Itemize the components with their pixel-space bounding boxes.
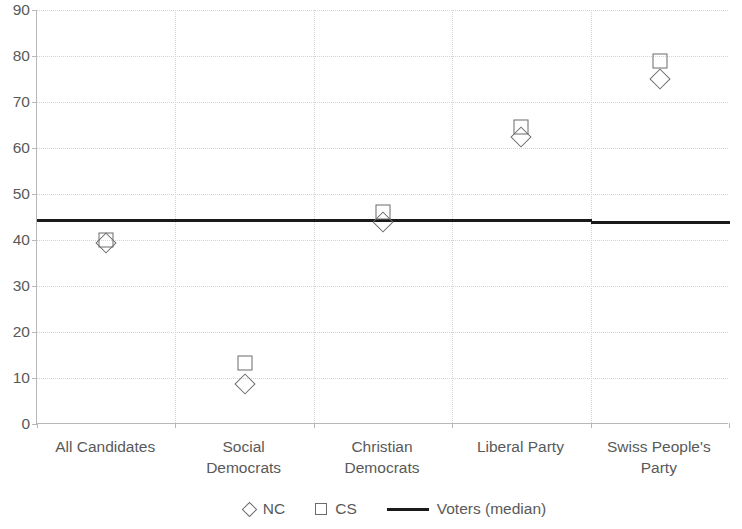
- legend-item-cs[interactable]: CS: [315, 500, 357, 518]
- gridline-y-60: [37, 148, 728, 149]
- gridline-y-20: [37, 332, 728, 333]
- y-axis-label-20: 20: [13, 324, 30, 340]
- legend-item-nc[interactable]: NC: [244, 500, 285, 518]
- y-axis-label-80: 80: [13, 48, 30, 64]
- median-line-segment-4: [591, 221, 730, 224]
- x-axis-category-4: Swiss People's Party: [590, 428, 728, 484]
- gridline-x-1: [175, 10, 176, 423]
- y-tick-50: [32, 194, 37, 195]
- legend-label-2: Voters (median): [437, 500, 546, 518]
- chart-legend: NCCSVoters (median): [193, 494, 597, 524]
- gridline-y-80: [37, 56, 728, 57]
- legend-label-1: CS: [335, 500, 357, 518]
- y-axis-label-50: 50: [13, 186, 30, 202]
- gridline-y-50: [37, 194, 728, 195]
- gridline-y-70: [37, 102, 728, 103]
- square-marker-icon: [315, 503, 327, 515]
- y-tick-90: [32, 10, 37, 11]
- legend-item-voters-median[interactable]: Voters (median): [387, 500, 546, 518]
- y-axis-labels: 0102030405060708090: [0, 0, 30, 529]
- marker-nc-1: [234, 373, 255, 394]
- y-axis-label-60: 60: [13, 140, 30, 156]
- y-tick-80: [32, 56, 37, 57]
- x-tick-5: [729, 423, 730, 428]
- gridline-y-90: [37, 10, 728, 11]
- gridline-x-3: [452, 10, 453, 423]
- x-axis-category-labels: All CandidatesSocial DemocratsChristian …: [36, 428, 728, 484]
- marker-cs-0: [99, 233, 114, 248]
- x-axis-category-0: All Candidates: [36, 428, 174, 484]
- y-tick-60: [32, 148, 37, 149]
- legend-label-0: NC: [263, 500, 285, 518]
- y-axis-label-40: 40: [13, 232, 30, 248]
- y-axis-label-30: 30: [13, 278, 30, 294]
- marker-cs-4: [652, 53, 667, 68]
- median-line-segment-1: [175, 219, 314, 222]
- y-tick-20: [32, 332, 37, 333]
- plot-area: [36, 10, 728, 424]
- x-axis-category-2: Christian Democrats: [313, 428, 451, 484]
- x-axis-category-3: Liberal Party: [451, 428, 589, 484]
- y-axis-label-0: 0: [21, 416, 30, 432]
- median-line-segment-3: [452, 219, 591, 222]
- y-tick-10: [32, 378, 37, 379]
- gridline-y-40: [37, 240, 728, 241]
- gridline-y-30: [37, 286, 728, 287]
- marker-cs-3: [514, 120, 529, 135]
- y-tick-40: [32, 240, 37, 241]
- marker-cs-2: [376, 205, 391, 220]
- y-axis-label-90: 90: [13, 2, 30, 18]
- gridline-x-2: [314, 10, 315, 423]
- line-marker-icon: [387, 508, 429, 511]
- median-line-segment-0: [37, 219, 176, 222]
- y-axis-label-70: 70: [13, 94, 30, 110]
- marker-nc-4: [649, 68, 670, 89]
- y-axis-label-10: 10: [13, 370, 30, 386]
- y-tick-70: [32, 102, 37, 103]
- gridline-y-10: [37, 378, 728, 379]
- diamond-marker-icon: [242, 501, 258, 517]
- gridline-x-4: [591, 10, 592, 423]
- marker-cs-1: [237, 355, 252, 370]
- chart-container: 0102030405060708090 All CandidatesSocial…: [0, 0, 742, 529]
- y-tick-30: [32, 286, 37, 287]
- x-axis-category-1: Social Democrats: [174, 428, 312, 484]
